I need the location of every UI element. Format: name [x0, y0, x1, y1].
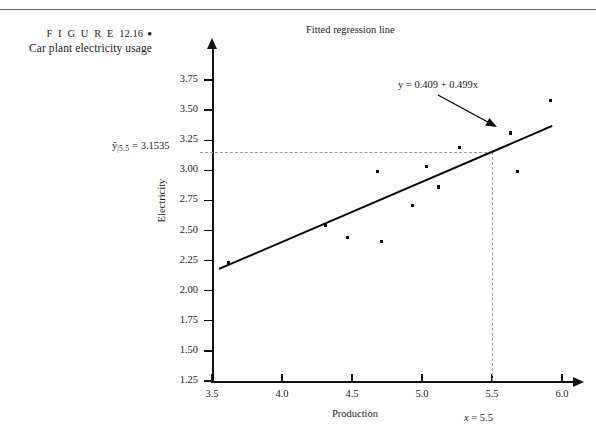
figure-label-prefix: F I G U R E — [46, 28, 115, 39]
y-hat-symbol: ŷ — [112, 140, 117, 151]
y-tick-label: 2.00 — [152, 284, 198, 295]
annotation-arrow-line — [438, 95, 491, 124]
y-tick-label: 1.75 — [152, 314, 198, 325]
prediction-value: = 3.1535 — [129, 140, 169, 151]
figure-page: F I G U R E 12.16 ● Car plant electricit… — [0, 0, 596, 445]
chart-title: Fitted regression line — [306, 24, 395, 35]
data-point — [227, 261, 230, 264]
x-tick-label: 5.5 — [472, 388, 512, 399]
regression-line — [219, 126, 552, 269]
x-tick-label: 4.0 — [262, 388, 302, 399]
equation-annotation: y = 0.409 + 0.499x — [398, 79, 478, 90]
y-axis-title: Electricity — [156, 171, 167, 231]
figure-number: 12.16 — [119, 28, 143, 39]
prediction-annotation: ŷ|5.5 = 3.1535 — [112, 140, 170, 153]
x-axis-title: Production — [332, 408, 378, 419]
y-tick-label: 2.25 — [152, 254, 198, 265]
x-tick-label: 6.0 — [542, 388, 582, 399]
data-point — [411, 204, 414, 207]
data-point — [324, 224, 327, 227]
x-tick-label: 4.5 — [332, 388, 372, 399]
y-tick-label: 3.75 — [152, 73, 198, 84]
equation-text: y = 0.409 + 0.499x — [398, 79, 478, 90]
figure-caption-text: Car plant electricity usage — [0, 41, 152, 56]
data-point — [380, 240, 383, 243]
data-point — [346, 236, 349, 239]
header-rule — [0, 9, 596, 10]
x-marker-value: = 5.5 — [469, 412, 493, 423]
data-point — [376, 170, 379, 173]
annotation-arrow-head — [485, 118, 497, 127]
data-point — [458, 146, 461, 149]
x-tick-label: 5.0 — [402, 388, 442, 399]
y-tick-label: 1.25 — [152, 374, 198, 385]
figure-caption: F I G U R E 12.16 ● Car plant electricit… — [0, 26, 152, 56]
x-tick-label: 3.5 — [192, 388, 232, 399]
figure-label-line: F I G U R E 12.16 ● — [0, 26, 152, 41]
bullet-icon: ● — [147, 29, 152, 38]
data-point — [516, 170, 519, 173]
data-point — [549, 99, 552, 102]
prediction-subscript: |5.5 — [117, 144, 129, 153]
y-tick-label: 3.50 — [152, 103, 198, 114]
data-point — [437, 185, 440, 188]
x-marker-annotation: x = 5.5 — [464, 412, 493, 423]
regression-line-svg — [212, 46, 580, 382]
y-tick-label: 1.50 — [152, 344, 198, 355]
data-point — [425, 165, 428, 168]
data-point — [509, 131, 512, 134]
